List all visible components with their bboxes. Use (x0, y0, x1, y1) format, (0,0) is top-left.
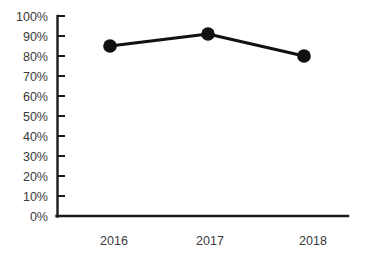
line-chart-figure: 100% 90% 80% 70% 60% 50% 40% 30% 20% 10%… (0, 0, 368, 270)
y-tick-label-40: 40% (23, 130, 48, 144)
data-point-2016 (103, 39, 117, 53)
y-tick-label-0: 0% (30, 210, 48, 224)
chart-canvas: 100% 90% 80% 70% 60% 50% 40% 30% 20% 10%… (0, 0, 368, 270)
y-tick-label-80: 80% (23, 50, 48, 64)
y-tick-label-30: 30% (23, 150, 48, 164)
data-point-2017 (201, 27, 215, 41)
x-tick-label-2016: 2016 (100, 234, 128, 248)
y-tick-label-90: 90% (23, 30, 48, 44)
y-tick-label-70: 70% (23, 70, 48, 84)
data-point-2018 (297, 49, 311, 63)
x-tick-label-2018: 2018 (299, 234, 327, 248)
y-tick-label-100: 100% (16, 10, 48, 24)
chart-background (0, 0, 368, 270)
y-tick-label-10: 10% (23, 190, 48, 204)
y-tick-label-20: 20% (23, 170, 48, 184)
x-tick-label-2017: 2017 (196, 234, 224, 248)
y-tick-label-60: 60% (23, 90, 48, 104)
y-tick-label-50: 50% (23, 110, 48, 124)
